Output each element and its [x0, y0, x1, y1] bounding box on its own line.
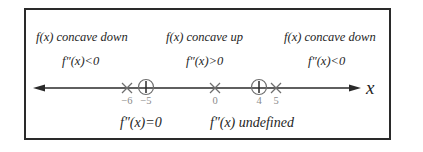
tick-label-neg6: −6 — [121, 95, 132, 106]
right-arrow-icon — [349, 85, 361, 92]
tick-label-0: 0 — [212, 95, 217, 106]
circle-plus-marker-icon — [252, 80, 267, 95]
left-arrow-icon — [33, 85, 45, 92]
tick-label-4: 4 — [256, 95, 261, 106]
tick-label-5: 5 — [273, 95, 278, 106]
circle-plus-marker-icon — [139, 80, 154, 95]
axis-label-x: x — [366, 77, 374, 99]
legend-undefined-label: f″(x) undefined — [210, 115, 294, 131]
legend-zero-label: f″(x)=0 — [120, 115, 162, 131]
tick-label-neg5: −5 — [140, 95, 151, 106]
